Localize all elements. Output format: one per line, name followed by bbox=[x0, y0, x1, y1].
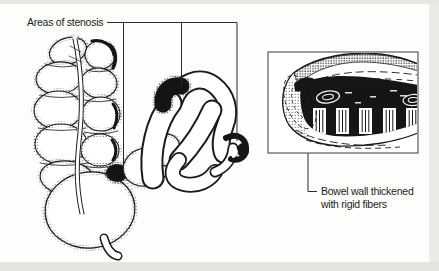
inset-leader-line bbox=[308, 153, 317, 192]
colon-haustra bbox=[33, 33, 139, 253]
bowel-wall-label: Bowel wall thickened with rigid fibers bbox=[321, 185, 413, 211]
loop-front-limb bbox=[179, 110, 212, 160]
colon-illustration bbox=[33, 33, 139, 256]
page-edge-top bbox=[0, 0, 439, 4]
bowel-loop-illustration bbox=[106, 80, 249, 191]
page-edge-bottom bbox=[0, 262, 439, 271]
medical-illustration-figure: Areas of stenosis Bowel wall thickened w… bbox=[0, 0, 439, 271]
bowel-wall-label-line1: Bowel wall thickened bbox=[321, 185, 413, 198]
bowel-wall-label-line2: with rigid fibers bbox=[321, 198, 413, 211]
loop-bottom-curl bbox=[173, 160, 215, 185]
areas-of-stenosis-label: Areas of stenosis bbox=[27, 16, 103, 29]
page-edge-right bbox=[429, 4, 439, 262]
figure-canvas bbox=[0, 0, 439, 271]
